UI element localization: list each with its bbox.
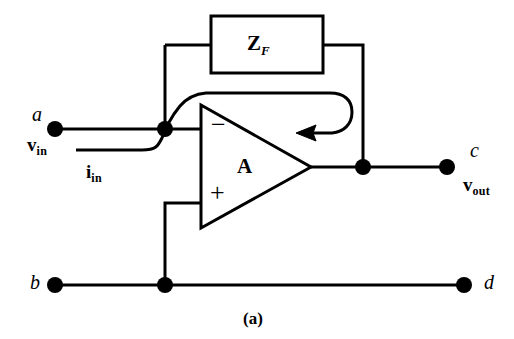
feedback-impedance-subscript: F — [261, 43, 270, 58]
output-voltage-subscript: out — [473, 184, 491, 198]
input-current-arrowhead — [296, 125, 316, 141]
feedback-impedance-label: ZF — [247, 33, 270, 54]
figure-caption: (a) — [243, 310, 263, 327]
terminal-label-d: d — [484, 272, 494, 292]
terminal-label-a: a — [32, 104, 42, 124]
noninverting-input-sign: + — [210, 180, 225, 206]
terminal-dot-a — [47, 121, 63, 137]
feedback-wire-right — [323, 45, 363, 167]
input-voltage-symbol: v — [27, 134, 37, 155]
junction-dot-ground-rail — [157, 277, 173, 293]
input-voltage-subscript: in — [37, 144, 48, 158]
terminal-label-b: b — [30, 272, 40, 292]
amplifier-gain-label: A — [237, 156, 252, 177]
noninverting-input-wire — [165, 203, 201, 285]
terminal-label-c: c — [470, 140, 479, 160]
input-voltage-label: vin — [27, 135, 47, 154]
input-current-subscript: in — [91, 171, 102, 185]
output-voltage-symbol: v — [463, 174, 473, 195]
terminal-dot-b — [47, 277, 63, 293]
junction-dot-output — [355, 159, 371, 175]
feedback-impedance-symbol: Z — [247, 31, 261, 55]
junction-dot-inverting-input — [157, 121, 173, 137]
input-current-label: iin — [86, 162, 102, 181]
terminal-dot-d — [456, 277, 472, 293]
inverting-input-sign: − — [211, 112, 226, 138]
output-voltage-label: vout — [463, 175, 490, 194]
circuit-figure: ZF A − + a b c d vin iin vout (a) — [0, 0, 514, 339]
terminal-dot-c — [439, 159, 455, 175]
